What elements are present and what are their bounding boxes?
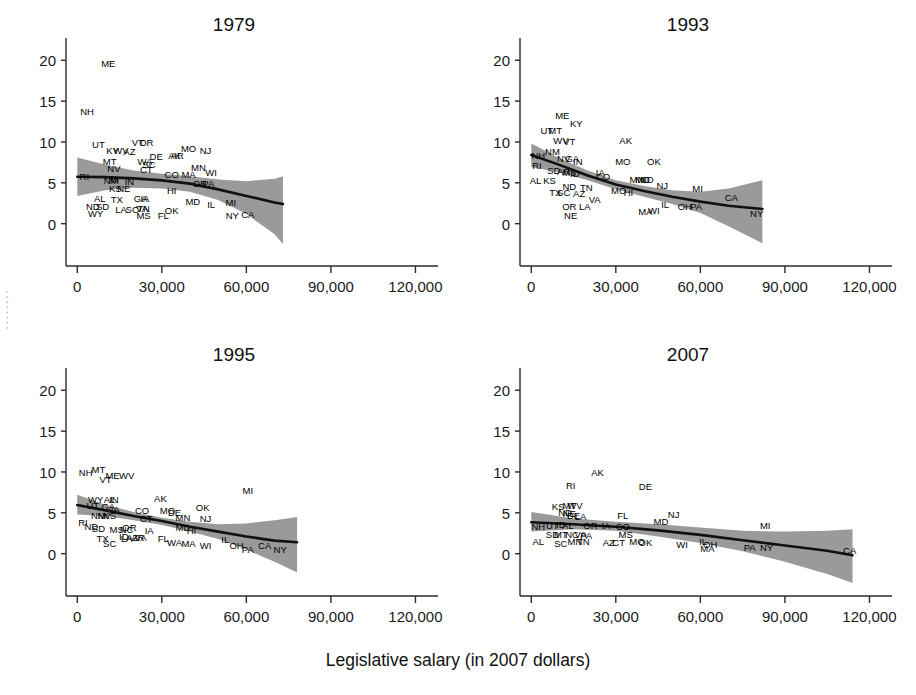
state-label: TN — [577, 537, 590, 547]
state-label: NY — [750, 209, 763, 219]
state-label: MA — [700, 544, 714, 554]
x-tick-label: 90,000 — [308, 608, 354, 625]
state-label: IA — [601, 521, 610, 531]
state-label: NH — [80, 107, 94, 117]
state-label: KS — [103, 511, 116, 521]
state-label: OK — [639, 538, 653, 548]
state-label: UT — [92, 140, 105, 150]
y-tick-label: 10 — [480, 133, 510, 150]
panel-1979: 197905101520030,00060,00090,000120,000ME… — [14, 14, 454, 314]
state-label: AZ — [123, 147, 135, 157]
x-tick-label: 120,000 — [842, 608, 896, 625]
state-label: IL — [221, 535, 229, 545]
plot-canvas — [14, 14, 454, 314]
state-label: RI — [566, 481, 576, 491]
y-tick-label: 5 — [26, 504, 56, 521]
state-label: MD — [654, 517, 669, 527]
state-label: NJ — [200, 146, 212, 156]
panel-1993: 199305101520030,00060,00090,000120,000ME… — [468, 14, 908, 314]
x-tick-label: 60,000 — [223, 278, 269, 295]
x-tick-label: 30,000 — [593, 608, 639, 625]
state-label: RI — [532, 161, 542, 171]
y-tick-label: 0 — [480, 215, 510, 232]
state-label: ME — [555, 111, 569, 121]
state-label: NV — [107, 164, 120, 174]
state-label: CT — [140, 515, 153, 525]
state-label: VT — [563, 137, 575, 147]
x-tick-label: 30,000 — [593, 278, 639, 295]
x-tick-label: 90,000 — [762, 608, 808, 625]
state-label: KS — [543, 176, 556, 186]
state-label: MI — [226, 199, 237, 209]
y-tick-label: 20 — [26, 52, 56, 69]
state-label: WY — [88, 209, 103, 219]
state-label: HI — [167, 186, 177, 196]
y-tick-label: 15 — [480, 423, 510, 440]
state-label: MI — [242, 486, 253, 496]
y-tick-label: 15 — [480, 93, 510, 110]
state-label: CA — [241, 210, 254, 220]
state-label: PA — [690, 203, 702, 213]
state-label: VA — [135, 533, 147, 543]
state-label: OK — [647, 158, 661, 168]
x-tick-label: 30,000 — [139, 608, 185, 625]
state-label: CO — [596, 172, 610, 182]
state-label: CA — [258, 541, 271, 551]
x-tick-label: 60,000 — [223, 608, 269, 625]
figure-root: ........ 197905101520030,00060,00090,000… — [0, 0, 916, 695]
state-label: NJ — [657, 181, 669, 191]
state-label: RI — [80, 172, 90, 182]
state-label: KY — [570, 119, 583, 129]
state-label: NH — [531, 522, 545, 532]
state-label: CA — [725, 193, 738, 203]
state-label: WI — [205, 168, 217, 178]
state-label: NY — [760, 543, 773, 553]
state-label: CA — [843, 546, 856, 556]
y-tick-label: 0 — [480, 545, 510, 562]
x-tick-label: 60,000 — [677, 278, 723, 295]
state-label: HI — [624, 188, 634, 198]
state-label: ND — [640, 176, 654, 186]
y-tick-label: 0 — [26, 545, 56, 562]
x-tick-label: 0 — [73, 608, 81, 625]
state-label: WI — [648, 207, 660, 217]
x-tick-label: 60,000 — [677, 608, 723, 625]
x-tick-label: 0 — [527, 278, 535, 295]
state-label: NJ — [200, 515, 212, 525]
state-label: MI — [760, 521, 771, 531]
state-label: FL — [617, 511, 628, 521]
y-tick-label: 5 — [480, 174, 510, 191]
state-label: MS — [136, 212, 150, 222]
state-label: AR — [171, 151, 184, 161]
state-label: OK — [165, 207, 179, 217]
state-label: PA — [242, 546, 254, 556]
state-label: AZ — [573, 190, 585, 200]
panel-2007: 200705101520030,00060,00090,000120,000AK… — [468, 344, 908, 644]
state-label: LA — [121, 534, 133, 544]
state-label: SC — [103, 539, 116, 549]
x-tick-label: 90,000 — [762, 278, 808, 295]
state-label: MI — [692, 185, 703, 195]
state-label: ID — [570, 169, 580, 179]
x-tick-label: 120,000 — [842, 278, 896, 295]
state-label: NY — [226, 211, 239, 221]
state-label: IN — [573, 158, 583, 168]
state-label: AL — [530, 176, 542, 186]
state-label: AK — [591, 468, 604, 478]
y-tick-label: 10 — [480, 463, 510, 480]
y-tick-label: 0 — [26, 215, 56, 232]
edge-artifact-text: ........ — [0, 289, 11, 330]
state-label: MA — [181, 539, 195, 549]
y-tick-label: 5 — [480, 504, 510, 521]
state-label: LA — [579, 202, 591, 212]
state-label: MO — [615, 157, 630, 167]
y-tick-label: 20 — [26, 382, 56, 399]
state-label: DE — [639, 482, 652, 492]
state-label: SC — [554, 539, 567, 549]
state-label: VT — [99, 475, 111, 485]
state-label: NY — [274, 546, 287, 556]
state-label: IL — [661, 200, 669, 210]
left-edge-artifact: ........ — [0, 0, 14, 695]
state-label: MN — [176, 513, 191, 523]
state-label: OR — [139, 138, 153, 148]
